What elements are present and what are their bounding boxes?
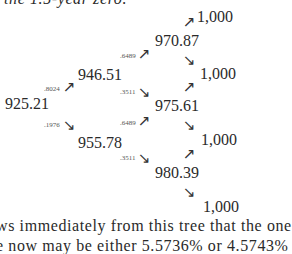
node-t2-uu: 970.87 <box>155 33 199 49</box>
node-t1-down: 955.78 <box>78 135 122 151</box>
arrow-down-icon: ↘ <box>63 118 76 133</box>
node-root: 925.21 <box>5 96 49 112</box>
top-text-line: the 1.5-year zero. <box>4 0 127 7</box>
prob-root-up: .8024 <box>44 86 60 93</box>
body-text-line-2: e now may be either 5.5736% or 4.5743% <box>0 238 289 254</box>
node-t1-up: 946.51 <box>78 67 122 83</box>
prob-root-down: .1976 <box>44 122 60 129</box>
arrow-up-icon: ↗ <box>183 80 196 95</box>
arrow-down-icon: ↘ <box>183 118 196 133</box>
arrow-up-icon: ↗ <box>183 147 196 162</box>
prob-t1-up-down: .3511 <box>120 89 136 96</box>
prob-t1-down-up: .6489 <box>120 120 136 127</box>
node-t3-0: 1,000 <box>197 9 233 25</box>
node-t3-3: 1,000 <box>203 199 239 215</box>
node-t3-1: 1,000 <box>200 66 236 82</box>
arrow-down-icon: ↘ <box>138 85 151 100</box>
arrow-down-icon: ↘ <box>183 185 196 200</box>
arrow-up-icon: ↗ <box>138 47 151 62</box>
node-t2-mid: 975.61 <box>155 98 199 114</box>
node-t2-dd: 980.39 <box>155 165 199 181</box>
arrow-up-icon: ↗ <box>138 114 151 129</box>
arrow-up-icon: ↗ <box>63 80 76 95</box>
arrow-up-icon: ↗ <box>183 15 196 30</box>
prob-t1-up-up: .6489 <box>120 53 136 60</box>
prob-t1-down-down: .3511 <box>120 155 136 162</box>
arrow-down-icon: ↘ <box>183 53 196 68</box>
node-t3-2: 1,000 <box>201 132 237 148</box>
body-text-line-1: ws immediately from this tree that the o… <box>0 218 292 234</box>
arrow-down-icon: ↘ <box>138 151 151 166</box>
